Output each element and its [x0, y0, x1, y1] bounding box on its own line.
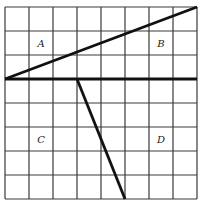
region-label-d: D [156, 134, 165, 145]
grid [5, 7, 197, 199]
region-label-a: A [36, 38, 44, 49]
region-label-c: C [37, 134, 45, 145]
grid-diagram: A B C D [0, 0, 202, 210]
region-label-b: B [156, 38, 164, 49]
